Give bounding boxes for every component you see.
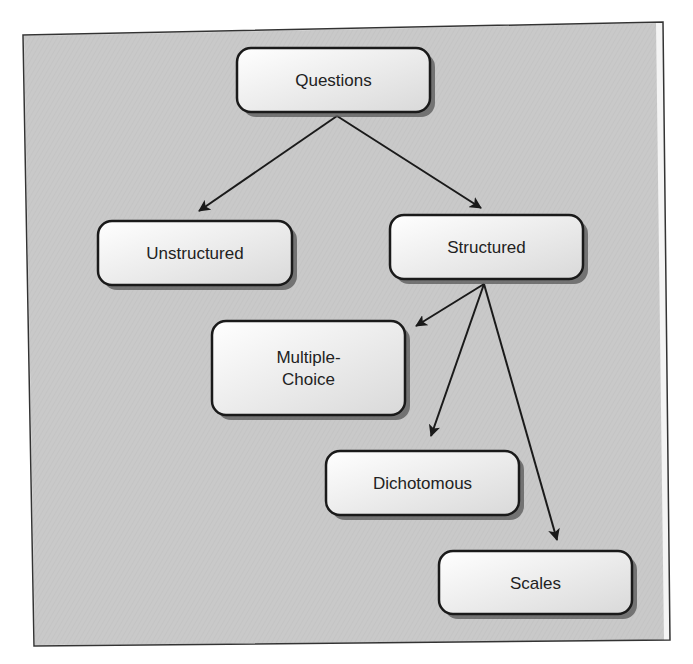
node-box [212,321,405,415]
node-label-line: Unstructured [146,244,243,263]
node-questions: Questions [237,48,435,117]
node-label-line: Dichotomous [373,474,472,493]
node-label: Dichotomous [373,474,472,493]
node-label-line: Multiple- [276,348,340,367]
node-structured: Structured [390,215,588,284]
node-label-line: Choice [282,370,335,389]
node-label-line: Scales [510,574,561,593]
node-label: Structured [447,238,525,257]
node-unstructured: Unstructured [98,221,297,290]
node-label: Scales [510,574,561,593]
node-label: Unstructured [146,244,243,263]
question-types-diagram: QuestionsUnstructuredStructuredMultiple-… [0,0,693,664]
node-label-line: Questions [295,71,372,90]
node-label: Questions [295,71,372,90]
node-label-line: Structured [447,238,525,257]
node-multiple-choice: Multiple-Choice [212,321,410,420]
node-dichotomous: Dichotomous [326,451,524,520]
node-scales: Scales [439,551,637,619]
